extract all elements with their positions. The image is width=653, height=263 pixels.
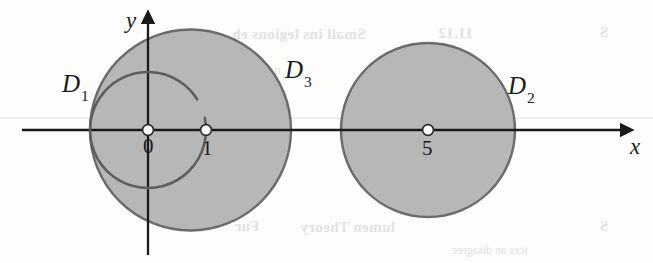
region-label-d3-subscript: 3 xyxy=(304,73,312,90)
tick-label-five: 5 xyxy=(422,136,433,161)
region-label-d1-subscript: 1 xyxy=(81,87,89,104)
y-axis-label: y xyxy=(126,8,136,34)
region-label-d3: D3 xyxy=(285,56,311,88)
tick-label-origin: 0 xyxy=(143,134,154,159)
point-marker-five xyxy=(423,125,434,136)
point-marker-one xyxy=(201,125,212,136)
tick-label-one: 1 xyxy=(202,136,213,161)
region-label-d2: D2 xyxy=(508,72,534,104)
region-label-d2-letter: D xyxy=(508,72,526,99)
x-axis-label: x xyxy=(630,134,640,160)
diagram-canvas xyxy=(0,0,653,263)
region-label-d1-letter: D xyxy=(62,70,80,97)
region-label-d1: D1 xyxy=(62,70,88,102)
figure-container: Small ins legions eh 11.12 S nouns aid l… xyxy=(0,0,653,263)
region-label-d3-letter: D xyxy=(285,56,303,83)
region-label-d2-subscript: 2 xyxy=(527,89,535,106)
